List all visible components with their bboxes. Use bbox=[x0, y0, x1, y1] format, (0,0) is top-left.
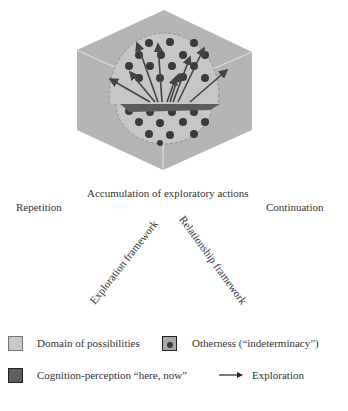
dot-icon bbox=[167, 342, 173, 348]
cognition-swatch bbox=[8, 368, 23, 383]
cube-diagram bbox=[0, 0, 348, 190]
legend-otherness-label: Otherness (“indeterminacy”) bbox=[192, 337, 319, 349]
legend-cognition-label: Cognition-perception “here, now” bbox=[37, 369, 187, 381]
arrow-icon bbox=[219, 371, 243, 379]
legend-domain-label: Domain of possibilities bbox=[37, 337, 140, 349]
relationship-framework-label: Relationship framework bbox=[177, 213, 249, 306]
otherness-swatch bbox=[162, 336, 177, 351]
right-label: Continuation bbox=[266, 201, 323, 213]
exploration-framework-label: Exploration framework bbox=[87, 218, 160, 307]
left-label: Repetition bbox=[16, 201, 62, 213]
domain-swatch bbox=[8, 336, 23, 351]
top-label: Accumulation of exploratory actions bbox=[87, 187, 249, 199]
legend-exploration-label: Exploration bbox=[252, 369, 304, 381]
